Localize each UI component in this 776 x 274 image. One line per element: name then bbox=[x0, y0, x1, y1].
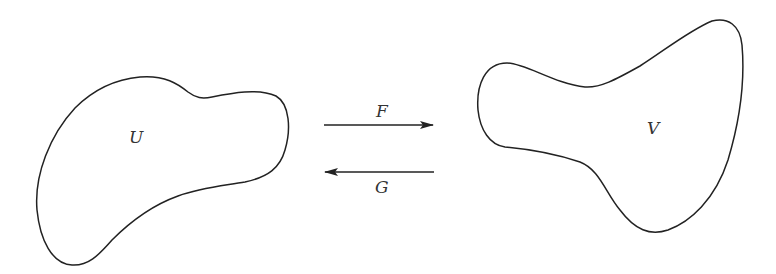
map-f-label: F bbox=[375, 101, 389, 121]
diagram-canvas: U V F G bbox=[0, 0, 776, 274]
set-u-label: U bbox=[129, 127, 144, 147]
set-u-region bbox=[37, 77, 289, 265]
set-v-region bbox=[478, 20, 743, 232]
set-v-label: V bbox=[647, 118, 661, 138]
map-g-label: G bbox=[375, 177, 389, 197]
